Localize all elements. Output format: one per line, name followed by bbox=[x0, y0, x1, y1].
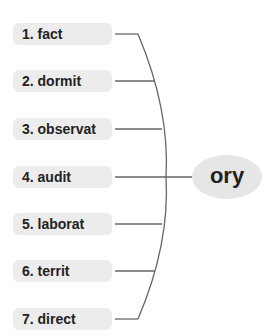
stem-box-1: 1. fact bbox=[13, 23, 112, 45]
stem-box-3: 3. observat bbox=[13, 118, 112, 140]
stem-box-7: 7. direct bbox=[13, 308, 112, 330]
stem-box-4: 4. audit bbox=[13, 166, 112, 188]
stem-box-5: 5. laborat bbox=[13, 213, 112, 235]
stem-box-2: 2. dormit bbox=[13, 70, 112, 92]
suffix-ellipse: ory bbox=[192, 155, 262, 199]
stem-box-6: 6. territ bbox=[13, 260, 112, 282]
